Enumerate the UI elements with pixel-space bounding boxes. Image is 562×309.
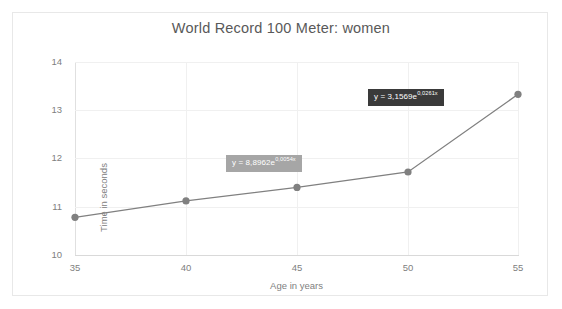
trendline-equation-upper-base: y = 3,1569e <box>374 92 417 101</box>
trendline-equation-upper: y = 3,1569e0,0261x <box>368 89 444 106</box>
data-point-55 <box>514 91 521 98</box>
x-tick-label-50: 50 <box>388 262 428 273</box>
trendline-equation-lower-exponent: 0,0054x <box>275 156 296 162</box>
trendline-equation-lower: y = 8,8962e0,0054x <box>226 155 302 172</box>
x-axis-title: Age in years <box>75 280 518 291</box>
y-tick-label-10: 10 <box>36 249 62 260</box>
y-tick-label-14: 14 <box>36 56 62 67</box>
y-tick-label-13: 13 <box>36 104 62 115</box>
x-tick-label-35: 35 <box>55 262 95 273</box>
x-tick-label-40: 40 <box>166 262 206 273</box>
y-tick-label-11: 11 <box>36 201 62 212</box>
x-axis-line <box>75 255 519 256</box>
data-point-50 <box>404 168 411 175</box>
data-point-40 <box>182 197 189 204</box>
x-tick-label-55: 55 <box>498 262 538 273</box>
data-point-45 <box>293 184 300 191</box>
trendline-equation-upper-exponent: 0,0261x <box>417 90 438 96</box>
trendline-equation-lower-base: y = 8,8962e <box>232 158 275 167</box>
chart-title: World Record 100 Meter: women <box>0 20 562 36</box>
data-point-35 <box>71 214 78 221</box>
x-tick-label-45: 45 <box>277 262 317 273</box>
y-tick-label-12: 12 <box>36 152 62 163</box>
chart-screenshot: World Record 100 Meter: women Time in se… <box>0 0 562 309</box>
y-axis-title: Time in seconds <box>98 148 109 248</box>
